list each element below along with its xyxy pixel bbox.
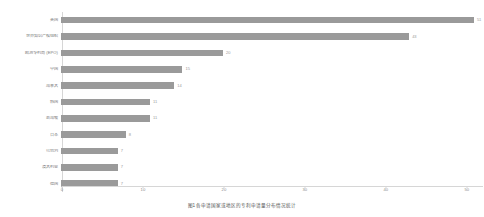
bar-row: 美国51 [0, 12, 484, 28]
bar-track: 11 [61, 94, 484, 110]
bar-value-label: 43 [412, 35, 416, 39]
bar-track: 43 [61, 28, 484, 44]
bar-value-label: 20 [226, 51, 230, 55]
x-tick-label: 10 [141, 188, 146, 192]
bar-row: 以色列7 [0, 143, 484, 159]
chart-figure: 美国51世界知识产权组织43欧洲专利局 (EPO)20中国15加拿大14韩国11… [0, 0, 484, 217]
bar-row: 欧洲专利局 (EPO)20 [0, 45, 484, 61]
bar-track: 7 [61, 143, 484, 159]
bar-value-label: 15 [185, 67, 189, 71]
x-tick-label: 50 [464, 188, 469, 192]
category-label: 欧洲专利局 (EPO) [0, 51, 61, 55]
bar-row: 新加坡11 [0, 110, 484, 126]
bar-value-label: 11 [153, 100, 157, 104]
bar-value-label: 51 [477, 18, 481, 22]
bar-row: 加拿大14 [0, 77, 484, 93]
bar-row: 世界知识产权组织43 [0, 28, 484, 44]
bar-value-label: 7 [121, 149, 123, 153]
bar-track: 7 [61, 159, 484, 175]
x-tick-label: 0 [61, 188, 63, 192]
bar-value-label: 14 [177, 84, 181, 88]
bar-track: 15 [61, 61, 484, 77]
bar-row: 日本8 [0, 127, 484, 143]
x-tick-label: 20 [222, 188, 227, 192]
category-label: 新加坡 [0, 116, 61, 120]
bar [61, 164, 118, 171]
bar-value-label: 8 [129, 133, 131, 137]
bar-value-label: 11 [153, 116, 157, 120]
bar-track: 51 [61, 12, 484, 28]
bar [61, 115, 150, 122]
bar-row: 澳大利亚7 [0, 159, 484, 175]
bar-track: 20 [61, 45, 484, 61]
bar-value-label: 7 [121, 165, 123, 169]
bar [61, 50, 223, 57]
category-label: 日本 [0, 133, 61, 137]
bar [61, 148, 118, 155]
bar-row: 中国15 [0, 61, 484, 77]
category-label: 中国 [0, 67, 61, 71]
category-label: 加拿大 [0, 84, 61, 88]
category-label: 德国 [0, 182, 61, 186]
category-label: 韩国 [0, 100, 61, 104]
category-label: 美国 [0, 18, 61, 22]
bar-track: 11 [61, 110, 484, 126]
bar [61, 33, 409, 40]
x-axis-ticks: 01020304050 [62, 188, 483, 200]
x-axis-line [62, 186, 483, 187]
bar [61, 17, 474, 24]
bar-rows: 美国51世界知识产权组织43欧洲专利局 (EPO)20中国15加拿大14韩国11… [0, 12, 484, 192]
bar [61, 66, 182, 73]
bar [61, 82, 174, 89]
plot-area: 美国51世界知识产权组织43欧洲专利局 (EPO)20中国15加拿大14韩国11… [0, 6, 484, 192]
category-label: 澳大利亚 [0, 165, 61, 169]
bar-track: 14 [61, 77, 484, 93]
figure-caption: 图1 各申请国家或地区的专利申请量分布情况统计 [0, 203, 484, 209]
bar-row: 韩国11 [0, 94, 484, 110]
category-label: 以色列 [0, 149, 61, 153]
bar [61, 131, 126, 138]
bar-track: 8 [61, 127, 484, 143]
x-tick-label: 30 [303, 188, 308, 192]
x-tick-label: 40 [384, 188, 389, 192]
category-label: 世界知识产权组织 [0, 34, 61, 38]
bar [61, 99, 150, 106]
